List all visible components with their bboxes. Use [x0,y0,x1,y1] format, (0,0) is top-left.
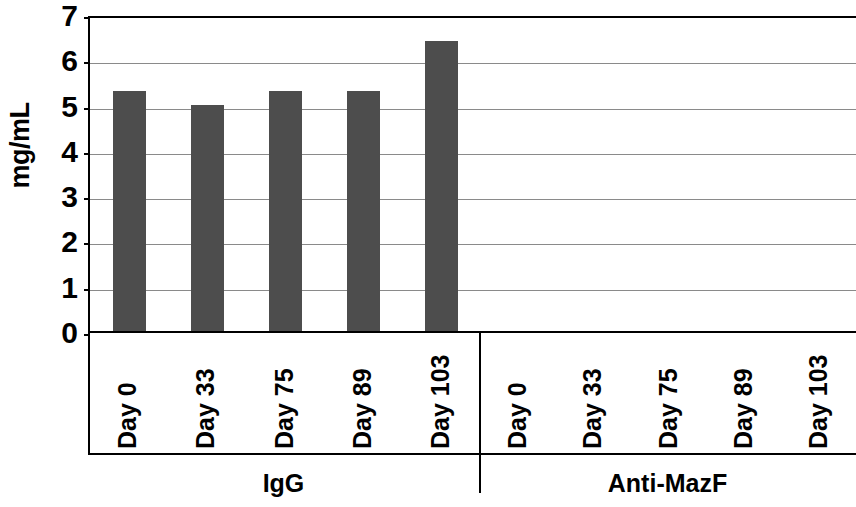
bar [347,91,380,331]
bar-chart: mg/mL 76543210 Day 0Day 33Day 75Day 89Da… [0,0,856,507]
category-label-text: Day 89 [349,368,374,449]
y-axis-tick-label: 7 [38,1,78,31]
plot-area [88,16,856,333]
category-label: Day 103 [424,333,456,453]
category-label-band: Day 0Day 33Day 75Day 89Day 103Day 0Day 3… [88,333,856,455]
y-axis-tick [84,153,90,155]
category-label: Day 103 [802,333,834,453]
y-axis-tick [84,62,90,64]
category-label-text: Day 75 [655,368,680,449]
bar [113,91,146,331]
category-label: Day 33 [576,333,608,453]
y-axis-tick [84,243,90,245]
category-label-text: Day 33 [580,368,605,449]
group-label: IgG [88,469,479,498]
category-label: Day 75 [268,333,300,453]
category-label-text: Day 0 [115,382,140,449]
category-label: Day 0 [501,333,533,453]
y-axis-tick-label: 5 [38,92,78,122]
y-axis-tick [84,108,90,110]
category-label-text: Day 0 [504,382,529,449]
category-label: Day 89 [727,333,759,453]
category-label: Day 0 [111,333,143,453]
category-label: Day 89 [346,333,378,453]
bar [269,91,302,331]
y-axis-tick-label: 4 [38,137,78,167]
category-label-text: Day 75 [271,368,296,449]
y-axis-tick-label: 1 [38,273,78,303]
category-label: Day 33 [189,333,221,453]
category-label: Day 75 [652,333,684,453]
category-label-text: Day 33 [193,368,218,449]
category-label-text: Day 89 [730,368,755,449]
y-axis-tick-label: 6 [38,46,78,76]
gridline [90,63,856,64]
y-axis-tick [84,198,90,200]
y-axis-tick-label: 2 [38,227,78,257]
y-axis-tick [84,17,90,19]
group-label-band: IgGAnti-MazF [88,455,856,507]
bar [425,41,458,331]
category-label-text: Day 103 [427,354,452,449]
y-axis-title: mg/mL [5,86,36,206]
group-label: Anti-MazF [479,469,856,498]
y-axis-tick-label: 0 [38,318,78,348]
y-axis-tick-label: 3 [38,182,78,212]
y-axis-tick-labels: 76543210 [38,0,78,345]
bar [191,105,224,331]
y-axis-tick [84,289,90,291]
category-label-text: Day 103 [806,354,831,449]
